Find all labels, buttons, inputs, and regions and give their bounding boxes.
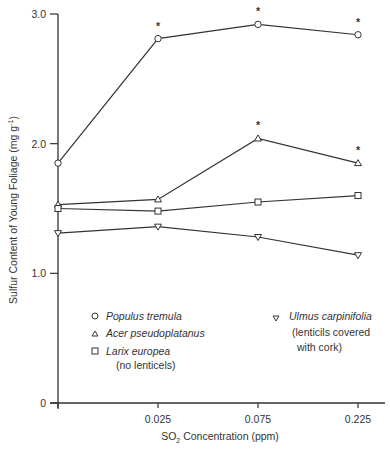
y-tick-label: 1.0: [31, 267, 46, 279]
data-point-marker: [155, 196, 162, 202]
significance-star: *: [256, 5, 261, 17]
x-axis-label: SO2 Concentration (ppm): [161, 430, 279, 444]
legend-acer: Acer pseudoplatanus: [105, 327, 205, 339]
data-point-marker: [255, 21, 261, 27]
legend-larix: Larix europea: [106, 345, 170, 357]
data-point-marker: [355, 193, 361, 199]
legend: Populus tremula Acer pseudoplatanus Lari…: [92, 310, 372, 371]
x-tick-label: 0.025: [145, 413, 171, 425]
data-point-marker: [355, 32, 361, 38]
series-line: [58, 227, 358, 256]
triangle-down-marker-icon: [273, 316, 279, 321]
x-tick-label: 0.225: [345, 413, 371, 425]
triangle-up-marker-icon: [92, 331, 98, 336]
significance-star: *: [156, 20, 161, 32]
data-point-marker: [255, 199, 261, 205]
legend-populus: Populus tremula: [106, 310, 182, 322]
significance-star: *: [356, 144, 361, 156]
line-chart: 01.02.03.0 0.0250.0750.225 ***** Sulfur …: [0, 0, 390, 452]
data-point-marker: [55, 160, 61, 166]
y-axis-label: Sulfur Content of Young Foliage (mg g-1): [7, 116, 19, 304]
data-point-marker: [255, 135, 262, 141]
series-group: *****: [55, 5, 362, 258]
y-tick-label: 0: [40, 397, 46, 409]
data-point-marker: [55, 206, 61, 212]
significance-star: *: [356, 16, 361, 28]
legend-ulmus-note-2: with cork): [296, 341, 342, 353]
series-line: [58, 196, 358, 212]
x-tick-label: 0.075: [245, 413, 271, 425]
x-ticks: 0.0250.0750.225: [58, 403, 371, 425]
data-point-marker: [155, 35, 161, 41]
y-tick-label: 3.0: [31, 8, 46, 20]
circle-marker-icon: [92, 313, 98, 319]
legend-ulmus: Ulmus carpinifolia: [289, 310, 372, 322]
y-ticks: 01.02.03.0: [31, 8, 58, 409]
legend-ulmus-note-1: (lenticils covered: [292, 326, 370, 338]
data-point-marker: [55, 231, 62, 237]
data-point-marker: [155, 208, 161, 214]
significance-star: *: [256, 119, 261, 131]
square-marker-icon: [92, 348, 98, 354]
series-line: [58, 138, 358, 204]
legend-larix-note: (no lenticels): [116, 359, 176, 371]
series-line: [58, 24, 358, 163]
y-tick-label: 2.0: [31, 138, 46, 150]
data-point-marker: [355, 253, 362, 259]
